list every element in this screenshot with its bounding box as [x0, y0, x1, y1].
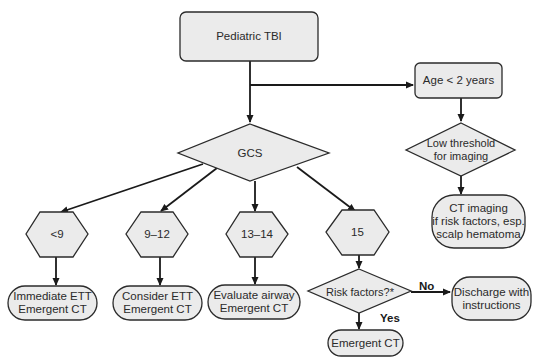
label-consider-ett: Consider ETT Emergent CT	[113, 286, 202, 320]
label-pediatric-tbi: Pediatric TBI	[180, 12, 318, 61]
edge-label-no: No	[419, 280, 434, 292]
label-gcs-lt9: <9	[26, 212, 88, 257]
label-ct-imaging: CT imaging if risk factors, esp. scalp h…	[432, 195, 525, 248]
label-gcs: GCS	[200, 134, 300, 172]
label-low-threshold: Low threshold for imaging	[418, 128, 504, 172]
label-emergent-ct: Emergent CT	[328, 330, 403, 356]
edge-gcs-15	[297, 167, 355, 211]
label-gcs-9-12: 9–12	[126, 212, 188, 257]
label-discharge: Discharge with instructions	[452, 277, 531, 320]
label-evaluate-airway: Evaluate airway Emergent CT	[208, 285, 300, 319]
label-gcs-13-14: 13–14	[226, 212, 288, 257]
label-immediate-ett: Immediate ETT Emergent CT	[8, 286, 97, 320]
label-risk-factors: Risk factors?*	[318, 280, 402, 304]
edge-label-yes: Yes	[380, 312, 400, 324]
edge-gcs-lt9	[61, 164, 203, 212]
label-gcs-15: 15	[326, 210, 389, 255]
label-age-under-2: Age < 2 years	[415, 63, 502, 98]
